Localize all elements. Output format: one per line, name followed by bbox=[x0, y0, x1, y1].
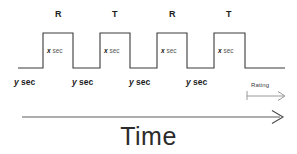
time-axis-label: Time bbox=[0, 124, 297, 149]
high-duration-label-3: x sec bbox=[161, 48, 177, 55]
high-duration-unit-3: sec bbox=[166, 47, 176, 54]
high-duration-label-2: x sec bbox=[104, 48, 120, 55]
high-duration-unit-2: sec bbox=[109, 47, 119, 54]
low-duration-unit-3: sec bbox=[136, 77, 150, 87]
condition-label-4: T bbox=[226, 10, 232, 19]
rating-label: Rating bbox=[251, 82, 269, 88]
high-duration-unit-1: sec bbox=[52, 47, 62, 54]
high-duration-value-1: x bbox=[47, 47, 51, 54]
high-duration-value-2: x bbox=[104, 47, 108, 54]
low-duration-unit-1: sec bbox=[21, 77, 35, 87]
low-duration-label-2: y sec bbox=[72, 78, 93, 87]
rating-interval-arrow bbox=[247, 91, 285, 101]
low-duration-label-1: y sec bbox=[14, 78, 35, 87]
high-duration-unit-4: sec bbox=[223, 47, 233, 54]
low-duration-value-3: y bbox=[129, 77, 134, 87]
high-duration-label-1: x sec bbox=[47, 48, 63, 55]
low-duration-value-1: y bbox=[14, 77, 19, 87]
high-duration-value-3: x bbox=[161, 47, 165, 54]
low-duration-value-2: y bbox=[72, 77, 77, 87]
low-duration-value-4: y bbox=[186, 77, 191, 87]
high-duration-value-4: x bbox=[218, 47, 222, 54]
low-duration-unit-2: sec bbox=[79, 77, 93, 87]
low-duration-unit-4: sec bbox=[193, 77, 207, 87]
condition-label-1: R bbox=[55, 10, 62, 19]
condition-label-2: T bbox=[112, 10, 118, 19]
condition-label-3: R bbox=[169, 10, 176, 19]
low-duration-label-3: y sec bbox=[129, 78, 150, 87]
low-duration-label-4: y sec bbox=[186, 78, 207, 87]
high-duration-label-4: x sec bbox=[218, 48, 234, 55]
